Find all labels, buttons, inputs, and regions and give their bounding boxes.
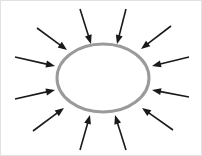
arrow-southwest-lower-head (55, 108, 64, 116)
arrow-southeast-lower-head (142, 108, 151, 116)
central-ellipse (57, 44, 149, 112)
arrow-south-left-shaft (80, 122, 88, 150)
arrow-northwest-upper (37, 28, 67, 50)
arrow-northwest-upper-head (58, 42, 67, 50)
arrow-southeast-lower (142, 108, 173, 130)
arrow-southeast-lower-shaft (148, 112, 173, 130)
arrow-north-right (116, 9, 126, 44)
arrow-southwest-lower (33, 108, 64, 131)
arrow-south-left (80, 115, 91, 150)
arrow-north-left-shaft (80, 9, 89, 37)
arrow-southwest-lower-shaft (33, 112, 58, 131)
arrow-west-upper-shaft (15, 57, 48, 64)
arrow-west-lower (15, 89, 55, 99)
arrow-east-upper-head (152, 60, 162, 67)
arrow-south-right-head (114, 115, 121, 125)
arrow-south-right-shaft (117, 122, 126, 150)
arrow-east-upper (152, 57, 189, 67)
arrow-west-upper-head (45, 61, 55, 68)
diagram-svg (0, 0, 202, 156)
arrow-northwest-upper-shaft (37, 28, 61, 46)
figure-canvas (0, 0, 202, 156)
arrow-east-lower (152, 88, 189, 97)
arrow-south-right (114, 115, 126, 150)
arrow-east-lower-head (152, 88, 161, 95)
arrow-west-lower-head (45, 89, 55, 96)
arrow-north-left-head (85, 34, 92, 44)
arrow-south-left-head (84, 115, 91, 125)
arrow-northeast-upper (141, 26, 171, 49)
arrow-northeast-upper-shaft (147, 26, 171, 44)
arrow-north-right-shaft (119, 9, 126, 37)
arrow-north-right-head (116, 34, 123, 44)
arrow-north-left (80, 9, 92, 44)
arrow-east-upper-shaft (159, 57, 189, 64)
arrow-west-upper (15, 57, 55, 67)
arrow-east-lower-shaft (159, 91, 189, 97)
arrow-west-lower-shaft (15, 92, 48, 99)
